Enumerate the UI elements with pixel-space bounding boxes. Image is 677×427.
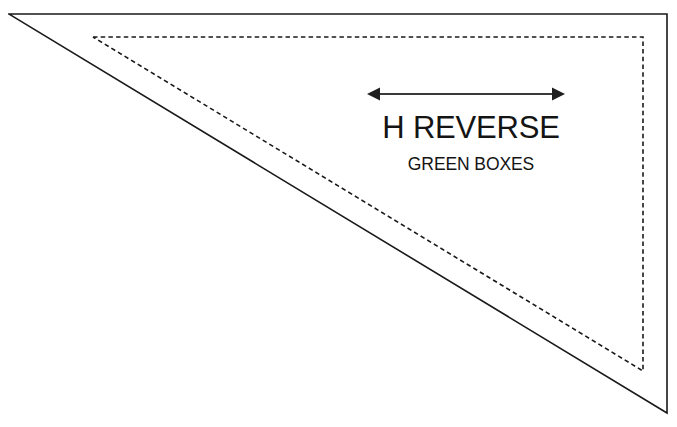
diagram-vector-layer [0, 0, 677, 427]
solid-triangle-outline [9, 14, 667, 413]
double-headed-horizontal-arrow [367, 88, 565, 101]
play-diagram-canvas: H REVERSE GREEN BOXES [0, 0, 677, 427]
arrow-head-right-icon [552, 88, 565, 101]
dashed-triangle-outline [93, 37, 643, 371]
arrow-head-left-icon [367, 88, 380, 101]
